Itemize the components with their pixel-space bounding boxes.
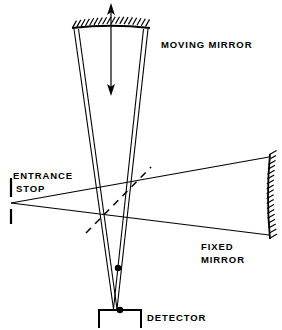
intermediate-focus-dot bbox=[115, 265, 121, 271]
ray-left-outer bbox=[74, 29, 114, 309]
fixed-mirror-label-line2: MIRROR bbox=[201, 254, 245, 265]
entrance-stop-label-line2: STOP bbox=[16, 183, 45, 194]
ray-bundle-group bbox=[11, 29, 269, 309]
fixed-mirror-label-line1: FIXED bbox=[201, 241, 233, 252]
detector-label: DETECTOR bbox=[147, 312, 206, 323]
detector-focus-dot bbox=[117, 307, 123, 313]
diagram-canvas: MOVING MIRROR ENTRANCE STOP FIXED MIRROR… bbox=[0, 0, 282, 330]
motion-arrow-head-up bbox=[108, 5, 114, 14]
beamsplitter bbox=[86, 167, 151, 233]
fixed-mirror bbox=[267, 151, 278, 239]
motion-arrow-head-down bbox=[108, 86, 114, 95]
entrance-stop-label-line1: ENTRANCE bbox=[13, 170, 73, 181]
ray-fan-horizontal bbox=[11, 157, 269, 235]
ray-horizontal-lower bbox=[11, 203, 269, 235]
ray-right-outer bbox=[117, 29, 148, 309]
optical-diagram-figure: MOVING MIRROR ENTRANCE STOP FIXED MIRROR… bbox=[0, 0, 282, 330]
mirror-motion-arrow bbox=[108, 5, 114, 94]
moving-mirror-label: MOVING MIRROR bbox=[161, 39, 252, 50]
detector bbox=[99, 307, 141, 328]
